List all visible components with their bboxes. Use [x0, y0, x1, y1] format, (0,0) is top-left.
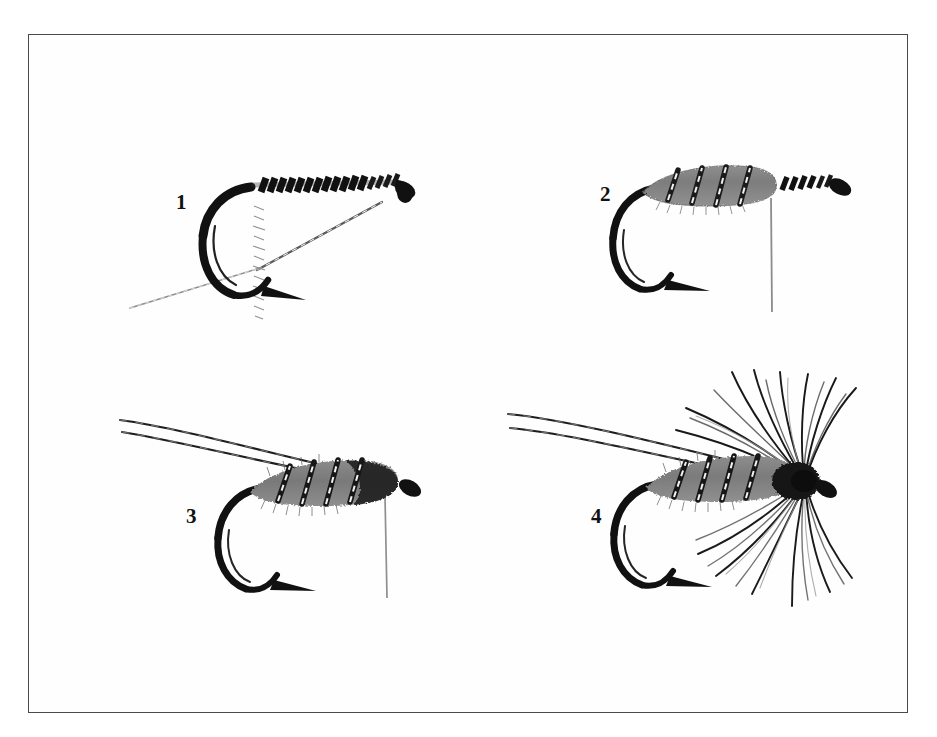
figure-root: 1 — [0, 0, 937, 737]
panel-1: 1 — [120, 140, 460, 360]
hook-barb — [261, 286, 306, 300]
hook-eye — [396, 476, 424, 501]
hook-barb — [270, 580, 316, 591]
hook-barb — [666, 576, 712, 587]
hook — [614, 484, 673, 586]
dubbed-gray-body — [643, 166, 776, 215]
panel-2: 2 — [560, 140, 900, 360]
panel-4-illustration — [500, 370, 900, 630]
panel-3-illustration — [110, 400, 450, 630]
hook — [218, 488, 277, 590]
panel-1-illustration — [120, 140, 460, 360]
thread-wraps-on-shank — [251, 174, 398, 192]
hanging-thread — [385, 496, 387, 598]
hanging-herl-strand — [253, 195, 265, 322]
hanging-thread — [771, 198, 772, 312]
hook-barb — [664, 280, 710, 291]
thread-wraps-head — [782, 175, 831, 190]
hook — [613, 188, 671, 290]
panel-2-illustration — [560, 140, 900, 360]
panel-3: 3 — [110, 400, 450, 630]
head — [772, 462, 820, 500]
panel-4: 4 — [500, 370, 900, 630]
